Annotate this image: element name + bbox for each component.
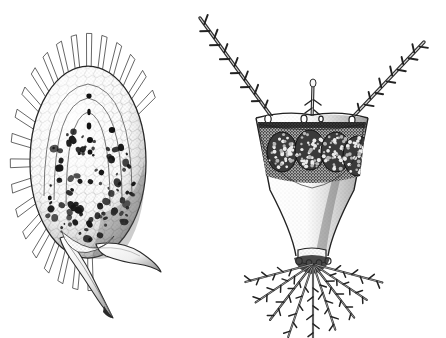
illustration-canvas [0, 0, 446, 338]
illustration-plate [0, 0, 446, 338]
